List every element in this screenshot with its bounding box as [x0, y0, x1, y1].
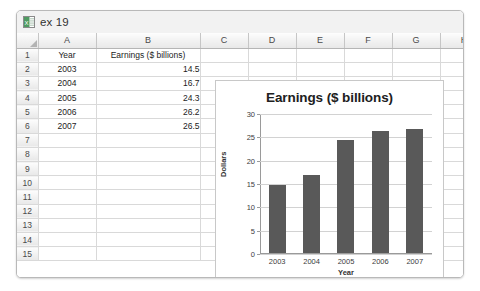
chart-x-tick-label: 2005: [331, 257, 361, 266]
row-header-2[interactable]: 2: [17, 62, 38, 76]
table-row: 1 Year Earnings ($ billions): [17, 48, 464, 62]
cell-a13[interactable]: [38, 218, 96, 232]
window-title: ex 19: [40, 16, 69, 28]
cell-a6[interactable]: 2007: [38, 119, 96, 133]
column-header-f[interactable]: F: [344, 33, 392, 48]
worksheet-area: A B C D E F G H 1 Year Earnings ($ billi…: [17, 33, 463, 278]
row-header-14[interactable]: 14: [17, 232, 38, 246]
chart-y-tick-label: 20: [247, 156, 255, 165]
cell-b10[interactable]: [96, 176, 200, 190]
cell-a8[interactable]: [38, 147, 96, 161]
column-header-g[interactable]: G: [392, 33, 440, 48]
cell-c2[interactable]: [200, 62, 248, 76]
cell-b15[interactable]: [96, 247, 200, 261]
chart-gridline: [260, 254, 432, 255]
row-header-5[interactable]: 5: [17, 105, 38, 119]
row-header-12[interactable]: 12: [17, 204, 38, 218]
chart-x-tick-label: 2007: [400, 257, 430, 266]
chart-bar: [406, 129, 423, 253]
column-header-a[interactable]: A: [38, 33, 96, 48]
column-header-h[interactable]: H: [440, 33, 464, 48]
row-header-9[interactable]: 9: [17, 162, 38, 176]
row-header-4[interactable]: 4: [17, 91, 38, 105]
cell-b12[interactable]: [96, 204, 200, 218]
column-header-b[interactable]: B: [96, 33, 200, 48]
cell-f1[interactable]: [344, 48, 392, 62]
cell-a9[interactable]: [38, 162, 96, 176]
cell-c1[interactable]: [200, 48, 248, 62]
chart-y-tick-label: 5: [251, 226, 255, 235]
chart-bar: [372, 131, 389, 253]
cell-a14[interactable]: [38, 232, 96, 246]
cell-a3[interactable]: 2004: [38, 76, 96, 90]
cell-f2[interactable]: [344, 62, 392, 76]
row-header-7[interactable]: 7: [17, 133, 38, 147]
cell-b5[interactable]: 26.2: [96, 105, 200, 119]
cell-a7[interactable]: [38, 133, 96, 147]
column-header-c[interactable]: C: [200, 33, 248, 48]
chart-x-tick-label: 2006: [365, 257, 395, 266]
cell-a2[interactable]: 2003: [38, 62, 96, 76]
cell-a1[interactable]: Year: [38, 48, 96, 62]
chart-y-tick-label: 30: [247, 110, 255, 119]
chart-bar: [269, 185, 286, 253]
row-header-13[interactable]: 13: [17, 218, 38, 232]
cell-b4[interactable]: 24.3: [96, 91, 200, 105]
select-all-corner[interactable]: [17, 33, 38, 48]
cell-b13[interactable]: [96, 218, 200, 232]
embedded-bar-chart[interactable]: Earnings ($ billions) Dollars 0510152025…: [215, 80, 444, 278]
cell-b11[interactable]: [96, 190, 200, 204]
select-all-triangle-icon: [30, 40, 37, 47]
cell-e1[interactable]: [296, 48, 344, 62]
cell-g2[interactable]: [392, 62, 440, 76]
column-header-d[interactable]: D: [248, 33, 296, 48]
cell-a4[interactable]: 2005: [38, 91, 96, 105]
row-header-1[interactable]: 1: [17, 48, 38, 62]
chart-y-tick-label: 10: [247, 203, 255, 212]
chart-plot-area: 051015202530: [260, 114, 432, 254]
cell-g1[interactable]: [392, 48, 440, 62]
cell-b8[interactable]: [96, 147, 200, 161]
row-header-15[interactable]: 15: [17, 247, 38, 261]
chart-x-tick-labels: 20032004200520062007: [260, 257, 432, 266]
cell-d2[interactable]: [248, 62, 296, 76]
cell-b7[interactable]: [96, 133, 200, 147]
cell-a10[interactable]: [38, 176, 96, 190]
chart-y-tick-label: 15: [247, 180, 255, 189]
chart-x-axis-label: Year: [260, 268, 432, 277]
cell-b3[interactable]: 16.7: [96, 76, 200, 90]
cell-e2[interactable]: [296, 62, 344, 76]
chart-y-tick-label: 25: [247, 133, 255, 142]
cell-h1[interactable]: [440, 48, 464, 62]
cell-a12[interactable]: [38, 204, 96, 218]
chart-title: Earnings ($ billions): [216, 90, 443, 105]
column-header-e[interactable]: E: [296, 33, 344, 48]
row-header-3[interactable]: 3: [17, 76, 38, 90]
chart-bar: [303, 175, 320, 253]
row-header-10[interactable]: 10: [17, 176, 38, 190]
spreadsheet-window: X ex 19 A B C D E F G H 1 Year Earnings …: [16, 10, 464, 278]
column-header-row: A B C D E F G H: [17, 33, 464, 48]
chart-x-tick-label: 2003: [262, 257, 292, 266]
svg-text:X: X: [25, 20, 29, 26]
row-header-6[interactable]: 6: [17, 119, 38, 133]
cell-a11[interactable]: [38, 190, 96, 204]
cell-b1[interactable]: Earnings ($ billions): [96, 48, 200, 62]
chart-x-tick-label: 2004: [297, 257, 327, 266]
cell-b14[interactable]: [96, 232, 200, 246]
excel-workbook-icon: X: [23, 16, 35, 28]
cell-b9[interactable]: [96, 162, 200, 176]
chart-bar: [337, 140, 354, 253]
cell-b6[interactable]: 26.5: [96, 119, 200, 133]
cell-a5[interactable]: 2006: [38, 105, 96, 119]
chart-y-tick-label: 0: [251, 250, 255, 259]
cell-a15[interactable]: [38, 247, 96, 261]
table-row: 2 2003 14.5: [17, 62, 464, 76]
cell-h2[interactable]: [440, 62, 464, 76]
row-header-8[interactable]: 8: [17, 147, 38, 161]
row-header-11[interactable]: 11: [17, 190, 38, 204]
title-bar: X ex 19: [17, 11, 463, 33]
cell-b2[interactable]: 14.5: [96, 62, 200, 76]
chart-bars: [260, 113, 432, 253]
cell-d1[interactable]: [248, 48, 296, 62]
